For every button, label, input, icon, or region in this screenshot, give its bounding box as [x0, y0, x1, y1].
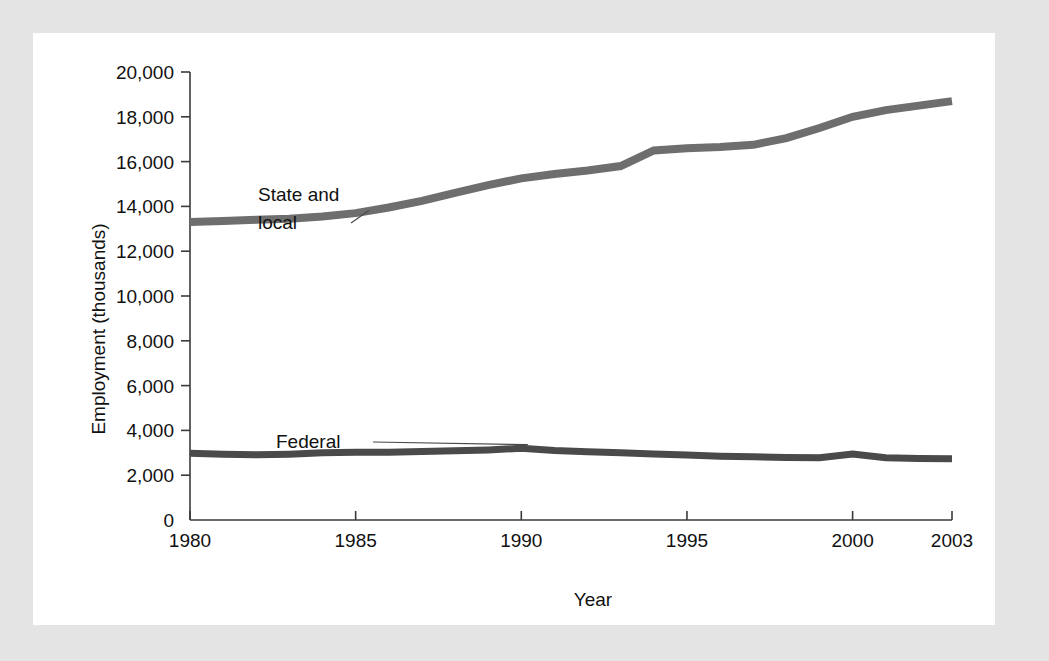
federal-leader-line — [373, 442, 528, 445]
state-and-local-label-line1: State and — [258, 184, 339, 205]
y-tick-label: 0 — [163, 510, 174, 531]
y-tick-label: 8,000 — [126, 331, 174, 352]
x-tick-label: 1995 — [666, 530, 708, 551]
y-tick-label: 16,000 — [116, 152, 174, 173]
page-root: 02,0004,0006,0008,00010,00012,00014,0001… — [0, 0, 1049, 661]
x-tick-label: 1985 — [335, 530, 377, 551]
y-tick-label: 4,000 — [126, 420, 174, 441]
y-tick-label: 12,000 — [116, 241, 174, 262]
state-and-local-label-line2: local — [258, 212, 297, 233]
y-axis-tick-labels: 02,0004,0006,0008,00010,00012,00014,0001… — [116, 62, 174, 531]
y-tick-label: 14,000 — [116, 196, 174, 217]
y-tick-label: 20,000 — [116, 62, 174, 83]
line-chart: 02,0004,0006,0008,00010,00012,00014,0001… — [33, 33, 995, 625]
y-axis-title: Employment (thousands) — [88, 223, 109, 434]
chart-panel: 02,0004,0006,0008,00010,00012,00014,0001… — [33, 33, 995, 625]
y-tick-label: 10,000 — [116, 286, 174, 307]
chart-svg: 02,0004,0006,0008,00010,00012,00014,0001… — [33, 33, 995, 625]
x-tick-label: 2003 — [931, 530, 973, 551]
y-tick-label: 6,000 — [126, 376, 174, 397]
federal-label: Federal — [276, 431, 340, 452]
y-tick-label: 2,000 — [126, 465, 174, 486]
x-axis-title: Year — [574, 589, 613, 610]
x-axis-tick-labels: 198019851990199520002003 — [169, 530, 973, 551]
x-tick-label: 1980 — [169, 530, 211, 551]
y-tick-label: 18,000 — [116, 107, 174, 128]
x-tick-label: 2000 — [831, 530, 873, 551]
x-tick-label: 1990 — [500, 530, 542, 551]
